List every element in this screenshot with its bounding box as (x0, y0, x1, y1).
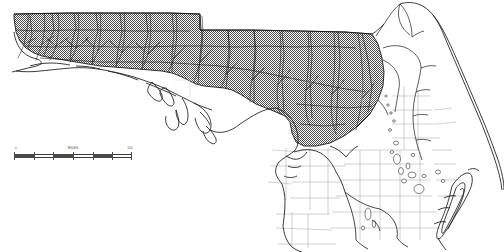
scale-bar-tick (93, 152, 94, 160)
scale-bar-segment (53, 154, 73, 158)
scale-bar-units-label: MILES (68, 147, 78, 151)
scale-bar-segment (93, 154, 113, 158)
scale-bar-tick (14, 152, 15, 160)
scale-bar-tick (53, 152, 54, 160)
scale-bar-tick (34, 152, 35, 160)
scale-bar-left-label: 0 (15, 147, 17, 151)
map-graphic (0, 0, 504, 252)
scale-bar-right-label: 100 (127, 147, 132, 151)
scale-bar-tick (73, 152, 74, 160)
scale-bar-segment (14, 154, 34, 158)
scale-bar-tick (131, 152, 132, 160)
map-figure: 0 MILES 100 (0, 0, 504, 252)
distance-scale-bar: 0 MILES 100 (14, 147, 132, 161)
scale-bar-tick (112, 152, 113, 160)
